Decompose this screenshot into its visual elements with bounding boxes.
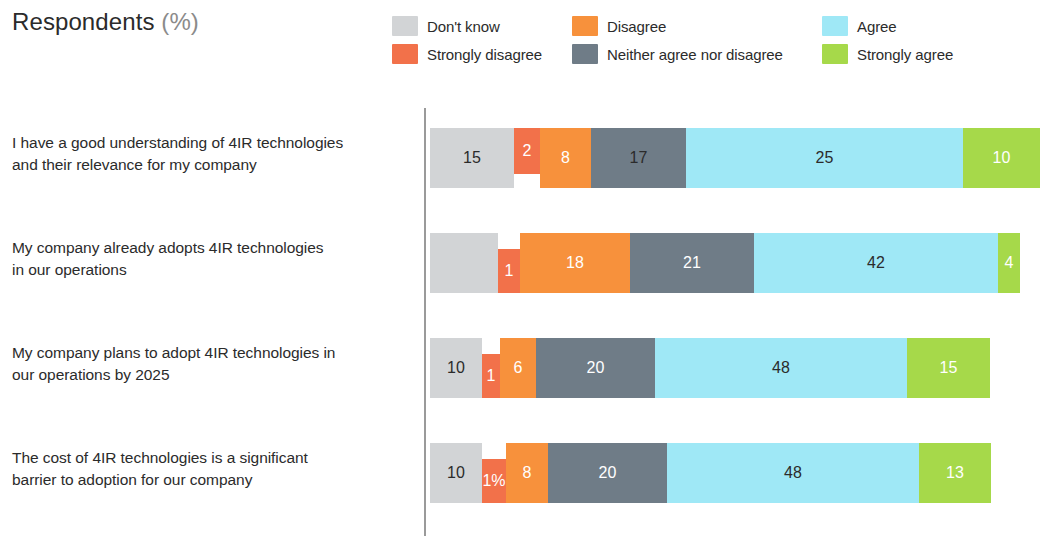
category-label: My company plans to adopt 4IR technologi… bbox=[12, 342, 412, 386]
bar-segment-disagree[interactable]: 8 bbox=[540, 128, 591, 188]
bar-segment-value: 10 bbox=[993, 149, 1011, 167]
bar-segment-value: 42 bbox=[867, 254, 885, 272]
legend-swatch-strongly_agree-icon bbox=[822, 44, 848, 64]
category-label-line2: barrier to adoption for our company bbox=[12, 469, 412, 491]
bar-segment-value: 2 bbox=[523, 142, 532, 160]
bar-segment-disagree[interactable]: 18 bbox=[520, 233, 630, 293]
category-label: My company already adopts 4IR technologi… bbox=[12, 237, 412, 281]
legend-item-agree[interactable]: Agree bbox=[822, 12, 990, 40]
category-label-line1: I have a good understanding of 4IR techn… bbox=[12, 132, 412, 154]
category-label-line1: My company plans to adopt 4IR technologi… bbox=[12, 342, 412, 364]
bar-segment-value: 48 bbox=[784, 464, 802, 482]
legend-item-strongly_agree[interactable]: Strongly agree bbox=[822, 40, 990, 68]
bar-segment-agree[interactable]: 25 bbox=[686, 128, 963, 188]
chart-header: Respondents (%) Don't knowDisagreeAgreeS… bbox=[0, 0, 990, 100]
bar-segment-agree[interactable]: 48 bbox=[655, 338, 907, 398]
bar-segment-value: 15 bbox=[940, 359, 958, 377]
bar-segment-agree[interactable]: 42 bbox=[754, 233, 998, 293]
chart-title-main: Respondents bbox=[12, 8, 155, 35]
bar-segment-strongly_disagree[interactable]: 2 bbox=[514, 128, 540, 174]
bar-segment-neither[interactable]: 20 bbox=[536, 338, 655, 398]
bar-segment-strongly_disagree[interactable]: 1 bbox=[482, 354, 500, 398]
bar-segment-value: 15 bbox=[463, 149, 481, 167]
legend-label: Strongly agree bbox=[857, 46, 953, 63]
bar-segment-dont_know[interactable]: 10 bbox=[430, 338, 482, 398]
category-label-line1: The cost of 4IR technologies is a signif… bbox=[12, 447, 412, 469]
bar-segment-dont_know[interactable]: 15 bbox=[430, 128, 514, 188]
legend-swatch-neither-icon bbox=[572, 44, 598, 64]
bar-segment-neither[interactable]: 17 bbox=[591, 128, 686, 188]
chart-plot-area: I have a good understanding of 4IR techn… bbox=[0, 100, 990, 536]
bar-segment-value: 4 bbox=[1005, 254, 1014, 272]
category-label-line1: My company already adopts 4IR technologi… bbox=[12, 237, 412, 259]
bar-segment-strongly_disagree[interactable]: 1 bbox=[498, 249, 520, 293]
chart-row: I have a good understanding of 4IR techn… bbox=[0, 110, 990, 215]
category-label-line2: in our operations bbox=[12, 259, 412, 281]
stacked-bar: 1016204815 bbox=[430, 338, 990, 398]
legend-label: Don't know bbox=[427, 18, 500, 35]
bar-segment-dont_know[interactable] bbox=[430, 233, 498, 293]
category-label-line2: and their relevance for my company bbox=[12, 154, 412, 176]
bar-segment-value: 1 bbox=[487, 367, 496, 385]
bar-segment-strongly_agree[interactable]: 10 bbox=[963, 128, 1040, 188]
legend-item-disagree[interactable]: Disagree bbox=[572, 12, 822, 40]
category-label-line2: our operations by 2025 bbox=[12, 364, 412, 386]
stacked-bar: 11821424 bbox=[430, 233, 1020, 293]
chart-row: My company already adopts 4IR technologi… bbox=[0, 215, 990, 320]
chart-title-unit: (%) bbox=[161, 8, 199, 35]
bar-segment-strongly_agree[interactable]: 13 bbox=[919, 443, 991, 503]
category-label: I have a good understanding of 4IR techn… bbox=[12, 132, 412, 176]
bar-segment-value: 10 bbox=[447, 464, 465, 482]
chart-row: My company plans to adopt 4IR technologi… bbox=[0, 320, 990, 425]
bar-segment-value: 17 bbox=[630, 149, 648, 167]
page-title: Respondents (%) bbox=[12, 8, 199, 36]
chart-row: The cost of 4IR technologies is a signif… bbox=[0, 425, 990, 530]
legend-item-strongly_disagree[interactable]: Strongly disagree bbox=[392, 40, 572, 68]
bar-segment-dont_know[interactable]: 10 bbox=[430, 443, 482, 503]
bar-segment-value: 10 bbox=[447, 359, 465, 377]
bar-segment-value: 6 bbox=[514, 359, 523, 377]
bar-segment-value: 8 bbox=[561, 149, 570, 167]
legend-swatch-agree-icon bbox=[822, 16, 848, 36]
bar-segment-value: 21 bbox=[683, 254, 701, 272]
bar-segment-agree[interactable]: 48 bbox=[667, 443, 919, 503]
legend-item-neither[interactable]: Neither agree nor disagree bbox=[572, 40, 822, 68]
legend-item-dont_know[interactable]: Don't know bbox=[392, 12, 572, 40]
bar-segment-value: 1 bbox=[505, 262, 514, 280]
legend-swatch-disagree-icon bbox=[572, 16, 598, 36]
chart-legend: Don't knowDisagreeAgreeStrongly disagree… bbox=[392, 12, 990, 68]
bar-segment-strongly_disagree[interactable]: 1% bbox=[482, 459, 506, 503]
bar-segment-neither[interactable]: 21 bbox=[630, 233, 754, 293]
legend-label: Agree bbox=[857, 18, 897, 35]
category-label: The cost of 4IR technologies is a signif… bbox=[12, 447, 412, 491]
bar-segment-strongly_agree[interactable]: 4 bbox=[998, 233, 1020, 293]
bar-segment-disagree[interactable]: 8 bbox=[506, 443, 548, 503]
bar-segment-disagree[interactable]: 6 bbox=[500, 338, 536, 398]
bar-segment-strongly_agree[interactable]: 15 bbox=[907, 338, 990, 398]
legend-swatch-dont_know-icon bbox=[392, 16, 418, 36]
bar-segment-value: 20 bbox=[587, 359, 605, 377]
bar-segment-value: 20 bbox=[599, 464, 617, 482]
bar-segment-value: 13 bbox=[946, 464, 964, 482]
bar-segment-value: 18 bbox=[566, 254, 584, 272]
legend-label: Neither agree nor disagree bbox=[607, 46, 783, 63]
bar-segment-neither[interactable]: 20 bbox=[548, 443, 667, 503]
bar-segment-value: 25 bbox=[816, 149, 834, 167]
legend-label: Disagree bbox=[607, 18, 666, 35]
stacked-bar: 1528172510 bbox=[430, 128, 1040, 188]
legend-label: Strongly disagree bbox=[427, 46, 542, 63]
bar-segment-value: 8 bbox=[523, 464, 532, 482]
legend-swatch-strongly_disagree-icon bbox=[392, 44, 418, 64]
stacked-bar: 101%8204813 bbox=[430, 443, 991, 503]
bar-segment-value: 48 bbox=[772, 359, 790, 377]
bar-segment-value: 1% bbox=[482, 472, 505, 490]
